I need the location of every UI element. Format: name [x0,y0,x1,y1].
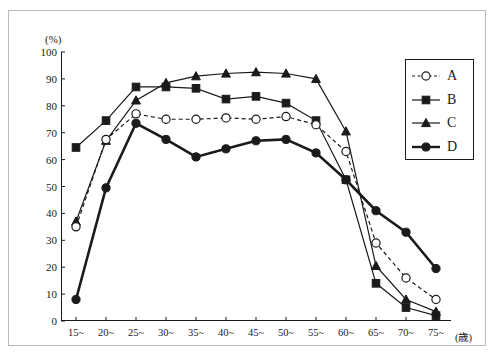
legend-marker-B-icon [410,90,442,110]
legend-marker-A-icon [410,66,442,86]
x-axis-tick-label: 75~ [414,327,458,338]
legend-symbol-B [422,96,430,104]
legend-item-D[interactable]: D [410,135,472,159]
legend-label-C: C [442,113,456,133]
legend-label-A: A [442,66,457,86]
x-axis-unit-label: (歳) [455,329,472,344]
legend-label-D: D [442,137,457,157]
legend-symbol-A [422,72,430,80]
legend-item-B[interactable]: B [410,88,472,112]
chart-legend: ABCD [405,59,474,160]
legend-symbol-D [422,142,430,150]
legend-item-A[interactable]: A [410,64,472,88]
legend-item-C[interactable]: C [410,111,472,135]
legend-marker-D-icon [410,137,442,157]
legend-marker-C-icon [410,113,442,133]
chart-figure: (%) 0102030405060708090100 15~20~25~30~3… [8,10,486,346]
legend-label-B: B [442,90,456,110]
